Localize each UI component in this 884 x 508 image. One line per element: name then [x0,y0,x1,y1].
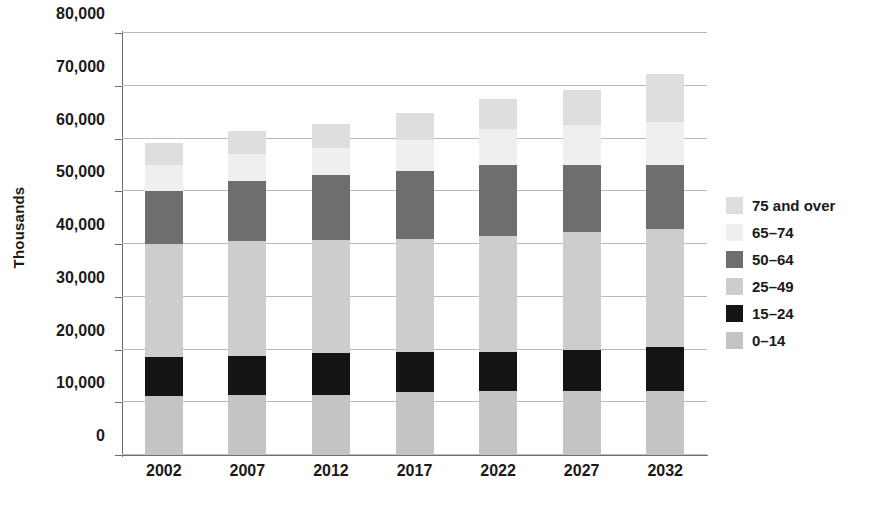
y-axis-tick [115,191,123,192]
bar-segment[interactable] [479,352,517,391]
bar-segment[interactable] [396,140,434,172]
legend-swatch-icon [726,305,743,322]
bar-segment[interactable] [563,391,601,455]
bar-segment[interactable] [563,90,601,125]
y-axis-tick [115,86,123,87]
bar-segment[interactable] [479,129,517,165]
legend-swatch-icon [726,251,743,268]
bar-2017[interactable] [396,113,434,455]
bar-segment[interactable] [228,241,266,357]
x-axis-tick-label: 2017 [375,462,455,480]
y-axis-tick [115,139,123,140]
bar-segment[interactable] [228,154,266,180]
gridline [122,32,707,33]
legend-swatch-icon [726,224,743,241]
y-axis-tick-label: 10,000 [9,374,105,392]
y-axis-tick [115,455,123,456]
bar-segment[interactable] [228,356,266,395]
y-axis-tick-label: 0 [9,427,105,445]
bar-segment[interactable] [563,232,601,349]
bar-segment[interactable] [312,395,350,455]
bar-segment[interactable] [145,191,183,244]
bar-segment[interactable] [396,113,434,139]
bar-segment[interactable] [396,171,434,239]
legend-item-label: 65–74 [752,224,794,241]
bar-segment[interactable] [396,352,434,393]
bar-segment[interactable] [228,395,266,455]
bar-segment[interactable] [479,236,517,352]
legend-item[interactable]: 65–74 [726,223,835,241]
bar-segment[interactable] [646,165,684,229]
legend-item[interactable]: 50–64 [726,250,835,268]
x-axis-tick-label: 2002 [124,462,204,480]
y-axis-tick [115,244,123,245]
legend-item-label: 0–14 [752,332,785,349]
y-axis-tick-label: 60,000 [9,111,105,129]
bar-segment[interactable] [145,143,183,165]
bar-segment[interactable] [312,124,350,148]
y-axis-tick-labels: 010,00020,00030,00040,00050,00060,00070,… [8,33,113,455]
y-axis-tick [115,297,123,298]
bar-segment[interactable] [479,391,517,455]
stacked-bar-chart: Thousands 010,00020,00030,00040,00050,00… [0,0,884,508]
bar-2012[interactable] [312,124,350,455]
y-axis-tick [115,402,123,403]
y-axis-tick-label: 30,000 [9,269,105,287]
y-axis-tick [115,350,123,351]
legend-item[interactable]: 25–49 [726,277,835,295]
bar-segment[interactable] [228,131,266,154]
bar-segment[interactable] [563,125,601,165]
y-axis-tick-label: 20,000 [9,322,105,340]
bar-segment[interactable] [479,165,517,236]
bar-segment[interactable] [145,357,183,396]
x-axis-tick-labels: 2002200720122017202220272032 [122,462,708,492]
bar-segment[interactable] [312,175,350,239]
y-axis-tick-label: 50,000 [9,163,105,181]
bar-segment[interactable] [646,74,684,121]
legend-item-label: 75 and over [752,197,835,214]
bar-segment[interactable] [646,391,684,455]
bar-segment[interactable] [646,347,684,391]
bar-2027[interactable] [563,90,601,455]
bar-segment[interactable] [646,229,684,347]
gridline [122,85,707,86]
bar-segment[interactable] [312,240,350,353]
legend-swatch-icon [726,278,743,295]
legend-swatch-icon [726,197,743,214]
y-axis-tick [115,33,123,34]
bar-2022[interactable] [479,99,517,455]
bar-2002[interactable] [145,143,183,455]
bar-segment[interactable] [145,165,183,191]
bar-segment[interactable] [145,396,183,455]
bar-segment[interactable] [396,392,434,455]
bar-2032[interactable] [646,74,684,455]
legend-item-label: 50–64 [752,251,794,268]
x-axis-tick-label: 2012 [291,462,371,480]
bar-2007[interactable] [228,131,266,455]
bar-segment[interactable] [312,353,350,396]
bar-segment[interactable] [479,99,517,129]
legend-item[interactable]: 75 and over [726,196,835,214]
x-axis-tick-label: 2027 [542,462,622,480]
x-axis-tick-label: 2007 [207,462,287,480]
bar-segment[interactable] [563,165,601,233]
bar-segment[interactable] [312,148,350,175]
bar-segment[interactable] [396,239,434,352]
x-axis-tick-label: 2022 [458,462,538,480]
bar-segment[interactable] [145,244,183,357]
bar-segment[interactable] [228,181,266,241]
legend-item-label: 15–24 [752,305,794,322]
x-axis-line [122,455,708,456]
legend-item-label: 25–49 [752,278,794,295]
y-axis-tick-label: 70,000 [9,58,105,76]
bar-segment[interactable] [563,350,601,392]
plot-area [122,33,707,455]
legend-item[interactable]: 15–24 [726,304,835,322]
bar-segment[interactable] [646,122,684,165]
y-axis-tick-label: 80,000 [9,5,105,23]
chart-legend: 75 and over65–7450–6425–4915–240–14 [726,196,835,349]
legend-swatch-icon [726,332,743,349]
x-axis-tick-label: 2032 [625,462,705,480]
legend-item[interactable]: 0–14 [726,331,835,349]
y-axis-tick-label: 40,000 [9,216,105,234]
